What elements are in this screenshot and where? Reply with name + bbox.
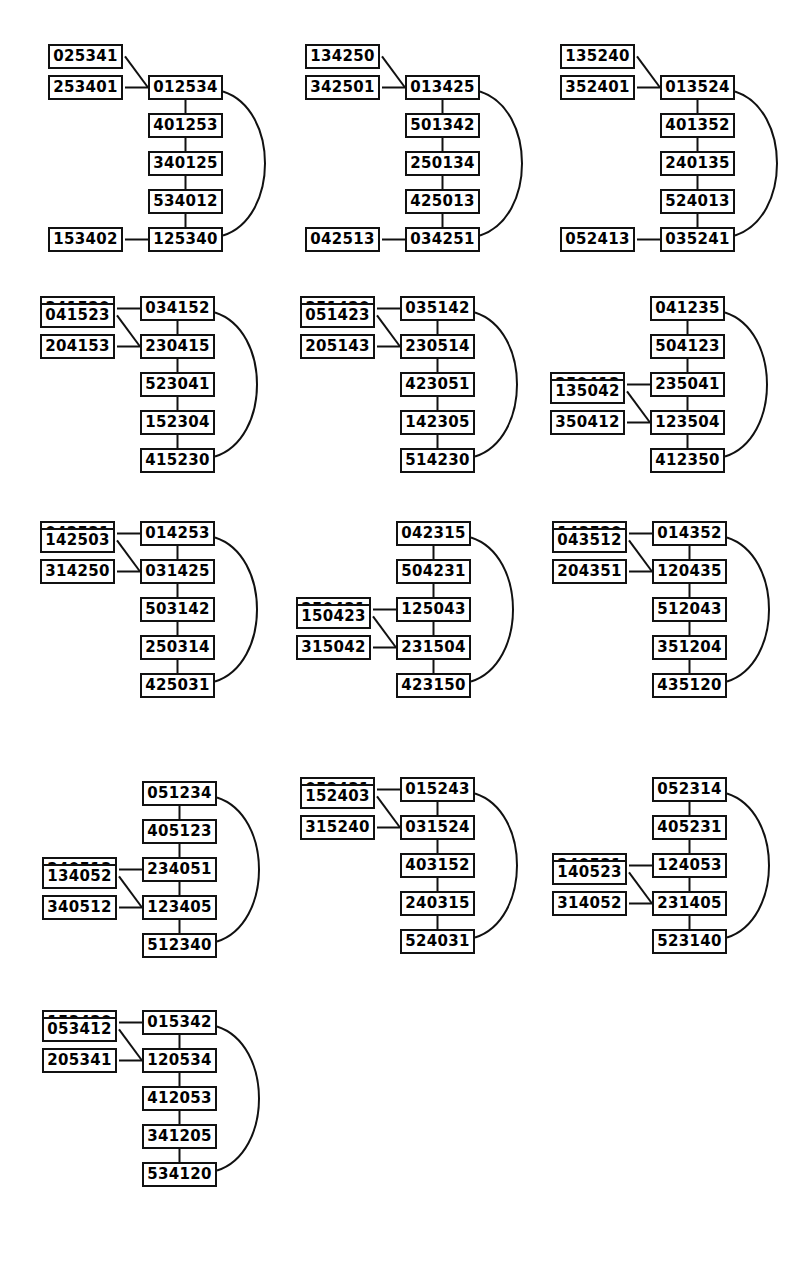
chain-node: 435120 bbox=[652, 673, 727, 698]
chain-node: 234051 bbox=[142, 857, 217, 882]
chain-node: 124053 bbox=[652, 853, 727, 878]
leaf-edge bbox=[125, 56, 148, 87]
leaf-node: 053412 bbox=[42, 1017, 117, 1042]
chain-node: 504123 bbox=[650, 334, 725, 359]
wrap-arc-edge bbox=[480, 92, 522, 236]
leaf-node: 253401 bbox=[48, 75, 123, 100]
chain-node: 035241 bbox=[660, 227, 735, 252]
chain-node: 051234 bbox=[142, 781, 217, 806]
leaf-edge bbox=[119, 876, 142, 907]
chain-node: 142305 bbox=[400, 410, 475, 435]
wrap-arc-edge bbox=[475, 794, 517, 938]
chain-node: 501342 bbox=[405, 113, 480, 138]
leaf-node: 315240 bbox=[300, 815, 375, 840]
leaf-edge bbox=[377, 796, 400, 827]
chain-node: 031524 bbox=[400, 815, 475, 840]
leaf-node: 340512 bbox=[42, 895, 117, 920]
leaf-edge bbox=[373, 616, 396, 647]
chain-node: 250314 bbox=[140, 635, 215, 660]
chain-node: 015243 bbox=[400, 777, 475, 802]
chain-node: 401352 bbox=[660, 113, 735, 138]
wrap-arc-edge bbox=[727, 794, 769, 938]
chain-node: 042315 bbox=[396, 521, 471, 546]
chain-node: 125043 bbox=[396, 597, 471, 622]
chain-node: 415230 bbox=[140, 448, 215, 473]
chain-node: 125340 bbox=[148, 227, 223, 252]
chain-node: 041235 bbox=[650, 296, 725, 321]
chain-node: 231405 bbox=[652, 891, 727, 916]
leaf-edge bbox=[627, 391, 650, 422]
leaf-edge bbox=[377, 315, 400, 346]
chain-node: 423150 bbox=[396, 673, 471, 698]
chain-node: 014352 bbox=[652, 521, 727, 546]
leaf-node: 352401 bbox=[560, 75, 635, 100]
chain-node: 152304 bbox=[140, 410, 215, 435]
chain-node: 340125 bbox=[148, 151, 223, 176]
chain-node: 524031 bbox=[400, 929, 475, 954]
wrap-arc-edge bbox=[223, 92, 265, 236]
chain-node: 035142 bbox=[400, 296, 475, 321]
chain-node: 401253 bbox=[148, 113, 223, 138]
chain-node: 240315 bbox=[400, 891, 475, 916]
leaf-node: 150423 bbox=[296, 604, 371, 629]
wrap-arc-edge bbox=[725, 313, 767, 457]
leaf-edge bbox=[637, 56, 660, 87]
chain-node: 351204 bbox=[652, 635, 727, 660]
chain-node: 034152 bbox=[140, 296, 215, 321]
leaf-node: 315042 bbox=[296, 635, 371, 660]
chain-node: 425031 bbox=[140, 673, 215, 698]
chain-node: 230514 bbox=[400, 334, 475, 359]
chain-node: 523140 bbox=[652, 929, 727, 954]
leaf-node: 350412 bbox=[550, 410, 625, 435]
leaf-node: 051423 bbox=[300, 303, 375, 328]
chain-node: 425013 bbox=[405, 189, 480, 214]
leaf-edge bbox=[117, 315, 140, 346]
leaf-edge bbox=[629, 872, 652, 903]
chain-node: 034251 bbox=[405, 227, 480, 252]
leaf-node: 314250 bbox=[40, 559, 115, 584]
chain-node: 524013 bbox=[660, 189, 735, 214]
leaf-node: 042513 bbox=[305, 227, 380, 252]
chain-node: 013524 bbox=[660, 75, 735, 100]
chain-node: 031425 bbox=[140, 559, 215, 584]
chain-node: 534120 bbox=[142, 1162, 217, 1187]
chain-node: 240135 bbox=[660, 151, 735, 176]
leaf-edge bbox=[117, 540, 140, 571]
leaf-node: 342501 bbox=[305, 75, 380, 100]
leaf-node: 052413 bbox=[560, 227, 635, 252]
chain-node: 012534 bbox=[148, 75, 223, 100]
chain-node: 250134 bbox=[405, 151, 480, 176]
leaf-node: 152403 bbox=[300, 784, 375, 809]
leaf-node: 140523 bbox=[552, 860, 627, 885]
leaf-node: 205143 bbox=[300, 334, 375, 359]
chain-node: 405231 bbox=[652, 815, 727, 840]
wrap-arc-edge bbox=[215, 538, 257, 682]
leaf-edge bbox=[382, 56, 405, 87]
chain-node: 523041 bbox=[140, 372, 215, 397]
figure-canvas: 0125344012533401255340121253400253412534… bbox=[0, 0, 809, 1270]
chain-node: 230415 bbox=[140, 334, 215, 359]
chain-node: 412053 bbox=[142, 1086, 217, 1111]
chain-node: 013425 bbox=[405, 75, 480, 100]
wrap-arc-edge bbox=[735, 92, 777, 236]
wrap-arc-edge bbox=[217, 1027, 259, 1171]
chain-node: 405123 bbox=[142, 819, 217, 844]
chain-node: 341205 bbox=[142, 1124, 217, 1149]
chain-node: 512043 bbox=[652, 597, 727, 622]
wrap-arc-edge bbox=[215, 313, 257, 457]
chain-node: 534012 bbox=[148, 189, 223, 214]
leaf-node: 043512 bbox=[552, 528, 627, 553]
leaf-node: 204351 bbox=[552, 559, 627, 584]
leaf-node: 025341 bbox=[48, 44, 123, 69]
leaf-node: 153402 bbox=[48, 227, 123, 252]
leaf-node: 135042 bbox=[550, 379, 625, 404]
chain-node: 403152 bbox=[400, 853, 475, 878]
chain-node: 231504 bbox=[396, 635, 471, 660]
leaf-node: 134250 bbox=[305, 44, 380, 69]
chain-node: 514230 bbox=[400, 448, 475, 473]
leaf-node: 135240 bbox=[560, 44, 635, 69]
leaf-edge bbox=[119, 1029, 142, 1060]
wrap-arc-edge bbox=[471, 538, 513, 682]
leaf-node: 204153 bbox=[40, 334, 115, 359]
leaf-node: 205341 bbox=[42, 1048, 117, 1073]
